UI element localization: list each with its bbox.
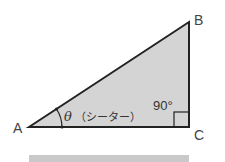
vertex-label-c: C bbox=[194, 127, 204, 143]
vertex-label-a: A bbox=[13, 120, 23, 136]
vertex-label-b: B bbox=[194, 12, 203, 28]
triangle-diagram: A B C θ （シーター） 90° bbox=[0, 0, 225, 162]
arc-endpoint-top bbox=[55, 107, 58, 110]
theta-reading: （シーター） bbox=[75, 111, 141, 124]
caption-bar bbox=[29, 155, 189, 162]
theta-symbol: θ bbox=[64, 109, 72, 124]
arc-endpoint-bottom bbox=[60, 125, 63, 128]
right-angle-label: 90° bbox=[153, 98, 173, 113]
